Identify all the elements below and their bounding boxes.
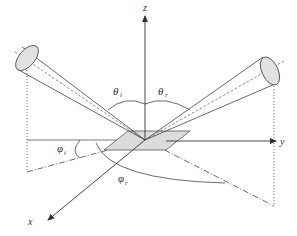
- phi-i-label: φ i: [57, 142, 66, 157]
- svg-text:θ: θ: [158, 85, 164, 97]
- brdf-geometry-diagram: z y x θ i θ r φ i φ r: [0, 0, 297, 236]
- theta-r-arc: [145, 101, 190, 110]
- y-axis-label: y: [279, 136, 285, 147]
- theta-i-arc: [108, 101, 145, 110]
- theta-i-label: θ i: [113, 85, 122, 99]
- svg-text:i: i: [64, 149, 66, 157]
- incident-cone: [11, 41, 145, 140]
- svg-text:r: r: [165, 91, 168, 99]
- phi-i-arc: [75, 140, 80, 158]
- svg-text:θ: θ: [113, 85, 119, 97]
- theta-r-label: θ r: [158, 85, 168, 99]
- surface-patch: [104, 131, 190, 150]
- svg-text:φ: φ: [57, 142, 63, 154]
- incident-cone-aperture: [11, 41, 43, 74]
- phi-r-label: φ r: [118, 172, 128, 187]
- z-axis-label: z: [142, 2, 147, 13]
- svg-text:i: i: [120, 91, 122, 99]
- svg-text:φ: φ: [118, 172, 124, 184]
- svg-text:r: r: [125, 179, 128, 187]
- x-axis-label: x: [27, 216, 33, 227]
